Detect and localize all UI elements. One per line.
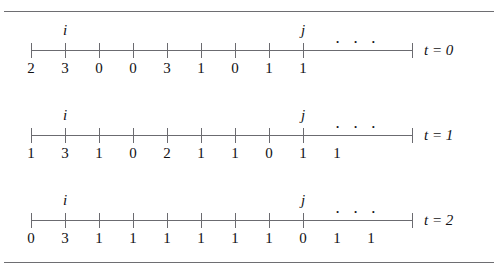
axis-tick: [201, 128, 202, 143]
pointer-label-j: j: [292, 22, 314, 39]
axis-tick: [65, 213, 66, 228]
figure-top-rule: [4, 11, 494, 12]
cell-value: 3: [156, 60, 178, 77]
cell-value: 2: [156, 145, 178, 162]
cell-value: 0: [292, 230, 314, 247]
axis-tick: [201, 43, 202, 58]
cell-value: 2: [20, 60, 42, 77]
cell-value: 1: [190, 230, 212, 247]
cell-value: 1: [20, 145, 42, 162]
row-caption: t = 2: [424, 211, 453, 229]
axis-tick: [201, 213, 202, 228]
axis-tick: [303, 128, 304, 143]
axis-tick: [31, 128, 32, 143]
axis-tick: [235, 128, 236, 143]
axis-tick: [167, 128, 168, 143]
cell-value: 1: [190, 145, 212, 162]
cell-value: 0: [258, 145, 280, 162]
axis-tick: [303, 43, 304, 58]
axis-tick: [99, 43, 100, 58]
cell-value: 1: [258, 230, 280, 247]
axis-tick: [269, 128, 270, 143]
cell-value: 3: [54, 230, 76, 247]
axis-tick: [269, 213, 270, 228]
cell-value: 3: [54, 60, 76, 77]
pointer-label-i: i: [54, 107, 76, 124]
pointer-label-j: j: [292, 107, 314, 124]
axis-end-tick: [412, 43, 413, 58]
cell-value: 1: [224, 230, 246, 247]
axis-tick: [269, 43, 270, 58]
axis-tick: [133, 43, 134, 58]
axis-tick: [133, 128, 134, 143]
cell-value: 1: [122, 230, 144, 247]
row-caption: t = 0: [424, 41, 453, 59]
row-caption: t = 1: [424, 126, 453, 144]
axis-tick: [99, 128, 100, 143]
pointer-label-i: i: [54, 192, 76, 209]
cell-value: 0: [224, 60, 246, 77]
cell-value: 1: [156, 230, 178, 247]
cell-value: 1: [360, 230, 382, 247]
cell-value: 1: [292, 145, 314, 162]
cell-value: 1: [292, 60, 314, 77]
pointer-label-i: i: [54, 22, 76, 39]
axis-tick: [65, 43, 66, 58]
cell-value: 1: [224, 145, 246, 162]
axis-tick: [167, 43, 168, 58]
ellipsis: · · ·: [330, 121, 386, 135]
axis-tick: [303, 213, 304, 228]
cell-value: 0: [122, 145, 144, 162]
axis-tick: [235, 43, 236, 58]
cell-value: 1: [190, 60, 212, 77]
cell-value: 3: [54, 145, 76, 162]
axis-tick: [133, 213, 134, 228]
ellipsis: · · ·: [330, 206, 386, 220]
timeline-row: t = 2 03111111011ij· · ·: [0, 192, 498, 266]
axis-tick: [31, 213, 32, 228]
axis-end-tick: [412, 213, 413, 228]
pointer-label-j: j: [292, 192, 314, 209]
cell-value: 0: [122, 60, 144, 77]
axis-tick: [65, 128, 66, 143]
cell-value: 1: [258, 60, 280, 77]
cell-value: 1: [88, 230, 110, 247]
ellipsis: · · ·: [330, 36, 386, 50]
cell-value: 1: [88, 145, 110, 162]
axis-tick: [235, 213, 236, 228]
axis-end-tick: [412, 128, 413, 143]
cell-value: 0: [20, 230, 42, 247]
axis-tick: [31, 43, 32, 58]
number-line-figure: t = 0 230031011ij· · · t = 1 1310211011i…: [0, 0, 498, 273]
cell-value: 0: [88, 60, 110, 77]
cell-value: 1: [326, 145, 348, 162]
timeline-row: t = 1 1310211011ij· · ·: [0, 107, 498, 181]
axis-tick: [167, 213, 168, 228]
axis-tick: [99, 213, 100, 228]
cell-value: 1: [326, 230, 348, 247]
timeline-row: t = 0 230031011ij· · ·: [0, 22, 498, 96]
